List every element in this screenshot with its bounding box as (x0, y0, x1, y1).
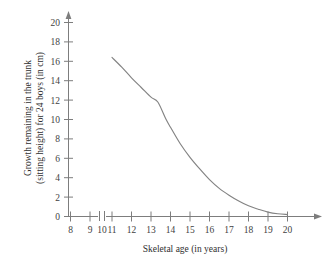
x-tick-label-18: 18 (244, 225, 254, 235)
growth-remaining-curve (112, 57, 288, 214)
x-tick-label-20: 20 (283, 225, 293, 235)
y-tick-label-18: 18 (51, 37, 61, 47)
y-axis-title-line-1: Growth remaining in the trunk (23, 60, 33, 176)
x-axis-tick-labels: 8 9 10 11 12 13 14 15 16 17 18 19 20 (68, 225, 292, 235)
y-tick-label-16: 16 (51, 57, 61, 67)
y-tick-label-20: 20 (51, 18, 61, 28)
x-tick-label-19: 19 (263, 225, 273, 235)
growth-remaining-line-chart: 0 2 4 6 8 10 12 14 16 18 20 (0, 0, 329, 270)
data-series-group (112, 57, 288, 214)
x-axis (69, 211, 323, 221)
y-axis-title: Growth remaining in the trunk (sitting h… (23, 52, 46, 184)
x-tick-label-11: 11 (107, 225, 116, 235)
x-tick-label-9: 9 (88, 225, 93, 235)
y-tick-label-10: 10 (51, 115, 61, 125)
x-tick-label-10: 10 (97, 225, 107, 235)
x-tick-label-12: 12 (127, 225, 137, 235)
chart-page: 0 2 4 6 8 10 12 14 16 18 20 (0, 0, 329, 270)
y-tick-label-8: 8 (55, 134, 60, 144)
y-tick-label-12: 12 (51, 96, 61, 106)
x-tick-label-15: 15 (185, 225, 195, 235)
x-tick-label-17: 17 (224, 225, 234, 235)
x-axis-title: Skeletal age (in years) (143, 244, 228, 255)
y-axis-tick-labels: 0 2 4 6 8 10 12 14 16 18 20 (51, 18, 61, 222)
x-tick-label-8: 8 (68, 225, 73, 235)
y-tick-label-2: 2 (55, 193, 60, 203)
x-tick-label-16: 16 (205, 225, 215, 235)
x-axis-arrow-icon (314, 214, 322, 220)
y-axis-arrow-icon (66, 11, 72, 19)
y-tick-label-0: 0 (55, 212, 60, 222)
y-axis-title-line-2: (sitting height) for 24 boys (in cm) (35, 52, 46, 184)
y-tick-label-6: 6 (55, 154, 60, 164)
y-tick-label-14: 14 (51, 76, 61, 86)
y-tick-label-4: 4 (55, 173, 60, 183)
x-tick-label-13: 13 (146, 225, 156, 235)
x-tick-label-14: 14 (166, 225, 176, 235)
